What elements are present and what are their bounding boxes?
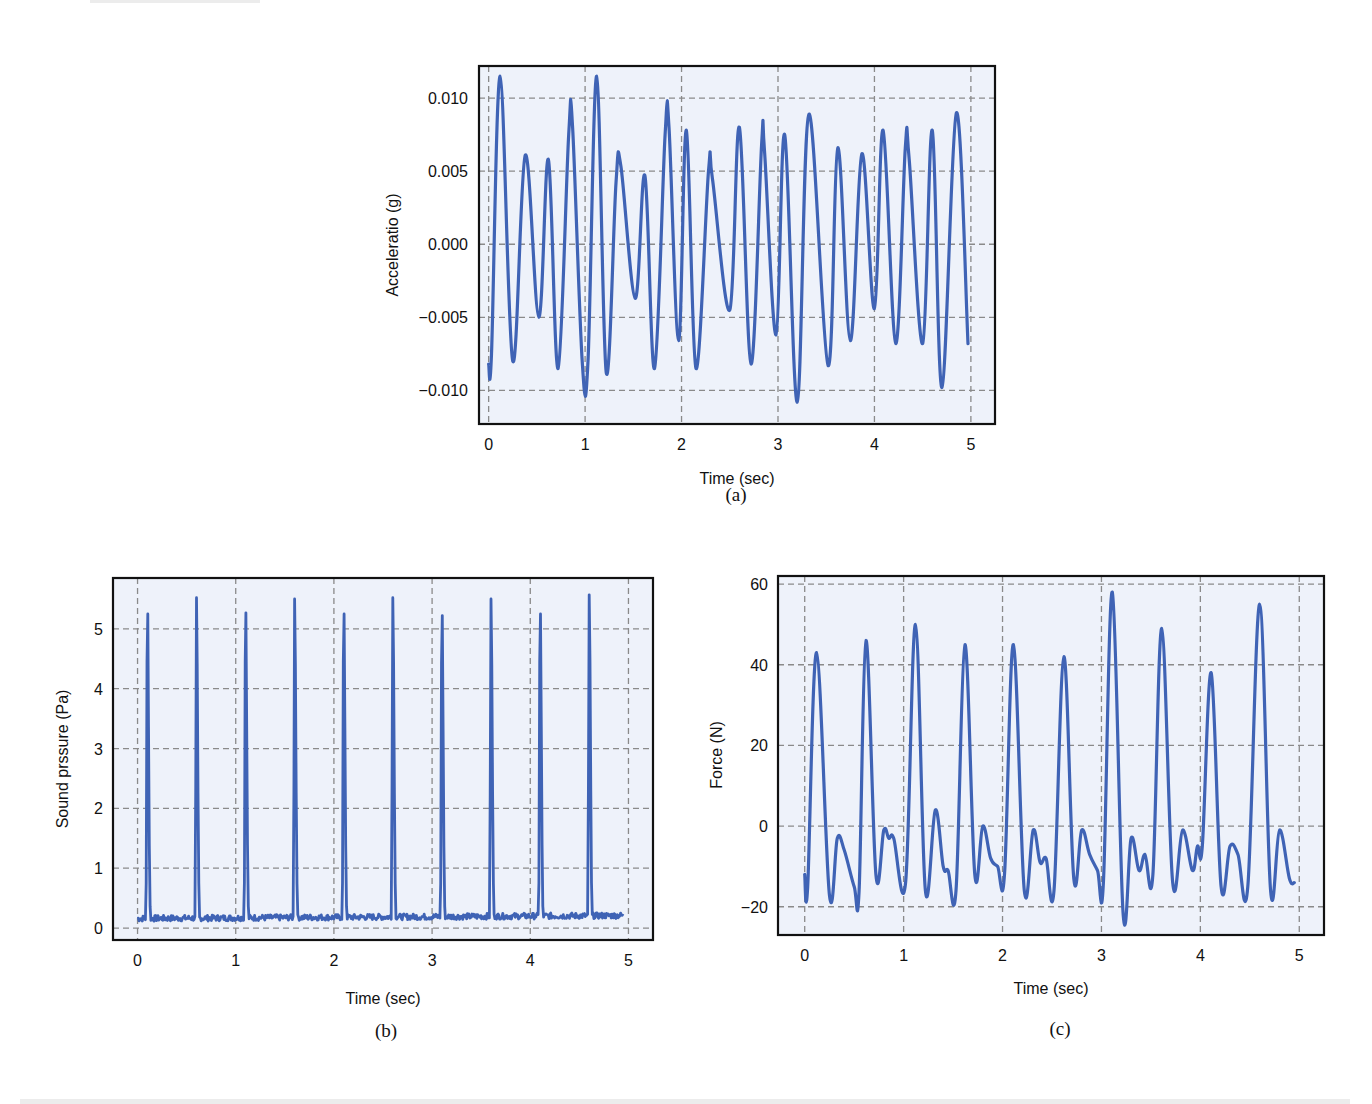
x-tick-label: 0 [800,947,809,964]
y-tick-label: 0 [759,818,768,835]
x-axis-label: Time (sec) [1014,980,1089,997]
y-axis-label: Force (N) [708,721,725,789]
x-tick-label: 4 [1196,947,1205,964]
cropped-text-top [90,0,260,3]
y-tick-label: 40 [750,657,768,674]
y-tick-label: 20 [750,737,768,754]
caption-c: (c) [1030,1018,1090,1040]
y-tick-label: 60 [750,576,768,593]
figure-c-force: 012345−200204060Time (sec)Force (N) (c) [0,0,1372,1104]
x-tick-label: 2 [998,947,1007,964]
x-tick-label: 3 [1097,947,1106,964]
cropped-text-bottom [20,1099,1350,1104]
x-tick-label: 5 [1295,947,1304,964]
x-tick-label: 1 [899,947,908,964]
y-tick-label: −20 [741,899,768,916]
chart-c-plot: 012345−200204060Time (sec)Force (N) [0,0,1372,1104]
